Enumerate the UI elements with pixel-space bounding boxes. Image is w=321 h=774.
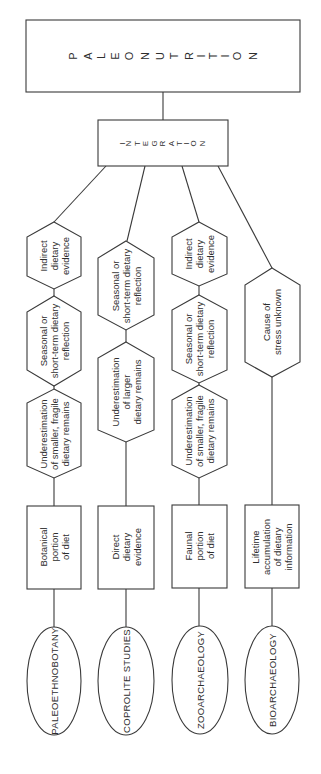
title-letter: I xyxy=(223,50,226,62)
integration-letter: R xyxy=(160,139,166,148)
integration-label: I N T E G R A T I O N xyxy=(98,120,228,166)
integration-letter: E xyxy=(143,139,148,148)
title-letter: L xyxy=(98,50,104,62)
integration-letter: I xyxy=(121,139,123,148)
title-letter: N xyxy=(141,50,149,62)
discipline-col2-label: COPROLITE STUDIES xyxy=(116,629,136,733)
integration-letter: T xyxy=(135,139,140,148)
discipline-col4-label: BIOARCHAEOLOGY xyxy=(262,628,282,732)
hexagon-col2-1-label: Seasonal or short-term dietary reflectio… xyxy=(106,225,146,347)
integration-letter: I xyxy=(185,139,187,148)
title-letter: E xyxy=(111,50,118,62)
hexagon-col2-2-label: Underestimation of larger dietary remain… xyxy=(106,331,146,453)
portion-col1-label: Botanical portion of diet xyxy=(34,507,74,587)
portion-col4-label: Lifetime accumulation of dietary informa… xyxy=(249,507,295,587)
integration-letter: A xyxy=(169,139,174,148)
discipline-col3-label: ZOOARCHAEOLOGY xyxy=(190,628,210,732)
integration-letter: N xyxy=(200,139,206,148)
title-letter: O xyxy=(233,50,242,62)
title-letter: N xyxy=(249,50,257,62)
hexagon-col3-3-label: Underestimation of smaller, fragile diet… xyxy=(179,370,219,492)
integration-letter: N xyxy=(126,139,132,148)
title-letter: R xyxy=(185,50,193,62)
portion-col2-label: Direct dietary evidence xyxy=(106,507,146,587)
integration-letter: O xyxy=(190,139,196,148)
hexagon-col1-3-label: Underestimation of smaller, fragile diet… xyxy=(34,373,74,495)
integration-letter: G xyxy=(151,139,157,148)
portion-col3-label: Faunal portion of diet xyxy=(179,506,219,586)
title-letter: O xyxy=(125,50,134,62)
discipline-col1-label: PALEOETHNOBOTANY xyxy=(44,629,64,733)
title-letter: P xyxy=(69,50,76,62)
title-label: P A L E O N U T R I T I O N xyxy=(26,20,300,92)
title-letter: T xyxy=(171,50,178,62)
title-letter: T xyxy=(210,50,217,62)
title-letter: I xyxy=(199,50,202,62)
title-letter: A xyxy=(84,50,91,62)
title-letter: U xyxy=(156,50,164,62)
hexagon-col4-1-label: Cause of stress unknown xyxy=(252,261,292,383)
connector-integration-col1 xyxy=(54,166,106,222)
